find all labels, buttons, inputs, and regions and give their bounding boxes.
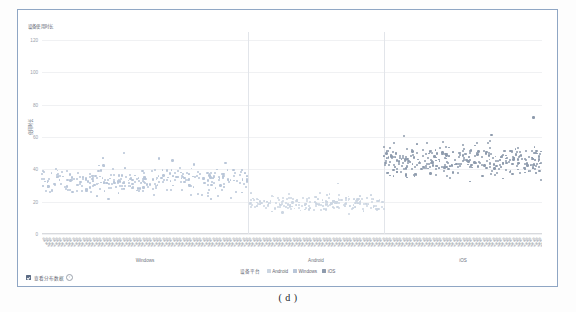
scatter-point[interactable] (51, 190, 53, 192)
scatter-point[interactable] (443, 170, 445, 172)
scatter-point[interactable] (123, 152, 125, 154)
scatter-point[interactable] (356, 201, 358, 203)
scatter-point[interactable] (377, 200, 379, 202)
scatter-point[interactable] (320, 209, 322, 211)
scatter-point[interactable] (390, 154, 392, 156)
scatter-point[interactable] (373, 206, 375, 208)
scatter-point[interactable] (175, 176, 177, 178)
scatter-point[interactable] (124, 167, 126, 169)
scatter-point[interactable] (115, 186, 117, 188)
scatter-point[interactable] (296, 204, 298, 206)
scatter-point[interactable] (429, 172, 431, 174)
scatter-point[interactable] (415, 173, 417, 175)
scatter-point[interactable] (445, 146, 447, 148)
scatter-point[interactable] (81, 185, 83, 187)
scatter-point[interactable] (469, 181, 471, 183)
scatter-point[interactable] (44, 181, 46, 183)
scatter-point[interactable] (54, 184, 56, 186)
scatter-point[interactable] (373, 198, 375, 200)
scatter-point[interactable] (338, 194, 340, 196)
scatter-point[interactable] (171, 159, 173, 161)
scatter-point[interactable] (230, 179, 232, 181)
scatter-point[interactable] (517, 158, 519, 160)
scatter-point[interactable] (143, 176, 145, 178)
scatter-point[interactable] (209, 176, 211, 178)
scatter-point[interactable] (370, 194, 372, 196)
scatter-point[interactable] (277, 197, 279, 199)
scatter-point[interactable] (51, 172, 53, 174)
scatter-point[interactable] (274, 207, 276, 209)
scatter-point[interactable] (41, 173, 43, 175)
scatter-point[interactable] (92, 180, 94, 182)
scatter-point[interactable] (487, 142, 489, 144)
scatter-point[interactable] (241, 169, 243, 171)
scatter-point[interactable] (381, 201, 383, 203)
scatter-point[interactable] (354, 206, 356, 208)
scatter-point[interactable] (459, 165, 461, 167)
scatter-point[interactable] (170, 189, 172, 191)
scatter-point[interactable] (442, 141, 444, 143)
scatter-point[interactable] (153, 194, 155, 196)
scatter-point[interactable] (218, 176, 220, 178)
scatter-point[interactable] (467, 160, 469, 162)
scatter-point[interactable] (474, 145, 476, 147)
scatter-point[interactable] (431, 152, 433, 154)
scatter-point[interactable] (174, 172, 176, 174)
scatter-point[interactable] (322, 205, 324, 207)
scatter-point[interactable] (498, 168, 500, 170)
scatter-point[interactable] (340, 199, 342, 201)
scatter-point[interactable] (291, 206, 293, 208)
scatter-point[interactable] (300, 210, 302, 212)
scatter-point[interactable] (519, 151, 521, 153)
scatter-point[interactable] (517, 169, 519, 171)
scatter-point[interactable] (406, 158, 408, 160)
scatter-point[interactable] (366, 197, 368, 199)
scatter-point[interactable] (436, 152, 438, 154)
scatter-point[interactable] (151, 170, 153, 172)
scatter-point[interactable] (213, 182, 215, 184)
scatter-point[interactable] (109, 178, 111, 180)
scatter-point[interactable] (335, 201, 337, 203)
scatter-point[interactable] (470, 164, 472, 166)
scatter-point[interactable] (462, 150, 464, 152)
scatter-point[interactable] (61, 171, 63, 173)
scatter-point[interactable] (121, 185, 123, 187)
scatter-point[interactable] (62, 176, 64, 178)
scatter-point[interactable] (511, 163, 513, 165)
scatter-point[interactable] (459, 152, 461, 154)
scatter-point[interactable] (260, 202, 262, 204)
scatter-point[interactable] (269, 202, 271, 204)
scatter-point[interactable] (534, 159, 536, 161)
scatter-point[interactable] (110, 174, 112, 176)
scatter-point[interactable] (121, 174, 123, 176)
scatter-point[interactable] (428, 163, 430, 165)
scatter-point[interactable] (152, 188, 154, 190)
scatter-point[interactable] (452, 171, 454, 173)
scatter-point[interactable] (393, 164, 395, 166)
scatter-point[interactable] (539, 163, 541, 165)
scatter-point[interactable] (207, 179, 209, 181)
scatter-point[interactable] (322, 202, 324, 204)
scatter-point[interactable] (223, 186, 225, 188)
scatter-point[interactable] (489, 147, 491, 149)
scatter-point[interactable] (230, 197, 232, 199)
scatter-point[interactable] (458, 156, 460, 158)
scatter-point[interactable] (45, 190, 47, 192)
scatter-point[interactable] (412, 163, 414, 165)
scatter-point[interactable] (505, 169, 507, 171)
scatter-point[interactable] (104, 190, 106, 192)
scatter-point[interactable] (304, 203, 306, 205)
scatter-point[interactable] (361, 198, 363, 200)
scatter-point[interactable] (166, 169, 168, 171)
scatter-point[interactable] (290, 197, 292, 199)
scatter-point[interactable] (223, 175, 225, 177)
scatter-point[interactable] (441, 166, 443, 168)
scatter-point[interactable] (160, 177, 162, 179)
scatter-point[interactable] (426, 142, 428, 144)
scatter-point[interactable] (345, 199, 347, 201)
scatter-point[interactable] (395, 156, 397, 158)
scatter-point[interactable] (525, 150, 527, 152)
scatter-point[interactable] (435, 157, 437, 159)
scatter-point[interactable] (489, 162, 491, 164)
scatter-point[interactable] (477, 165, 479, 167)
